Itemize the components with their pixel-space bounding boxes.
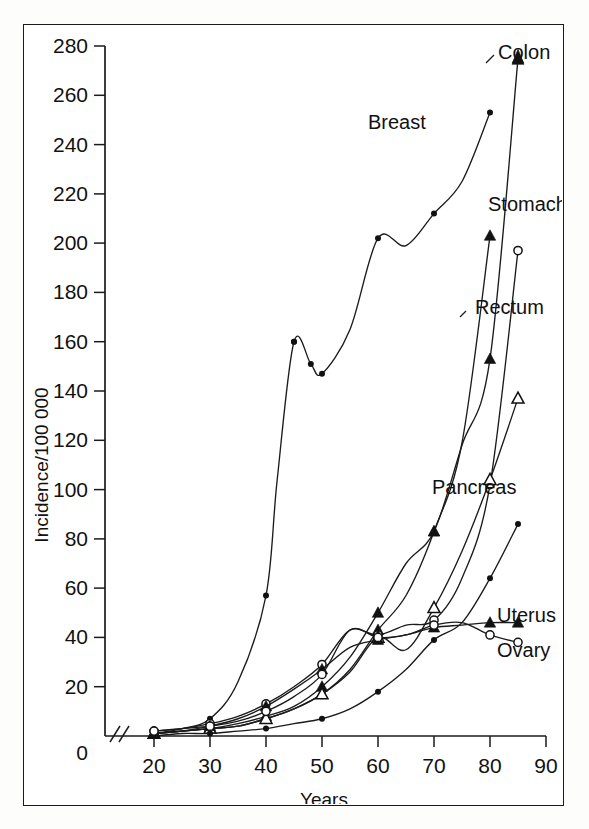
- data-point-filled-circle: [515, 521, 521, 527]
- series-ovary: [150, 621, 522, 735]
- y-tick-label: 120: [53, 428, 88, 451]
- data-point-filled-circle: [487, 110, 493, 116]
- data-point-filled-triangle: [484, 353, 495, 364]
- axis-break-mark: [110, 726, 129, 742]
- y-axis-title: Incidence/100 000: [31, 387, 52, 542]
- data-point-filled-triangle: [484, 230, 495, 241]
- y-tick-label: 200: [53, 231, 88, 254]
- y-tick-label: 240: [53, 133, 88, 156]
- x-tick-labels: 20 30 40 50 60 70 80 90: [142, 754, 557, 777]
- figure-root: 280 260 240 220 200 180 160 140 120 100 …: [0, 0, 589, 829]
- data-point-filled-circle: [263, 726, 269, 732]
- data-point-filled-circle: [291, 339, 297, 345]
- series-label-ovary: Ovary: [497, 639, 550, 661]
- series-line-colon: [154, 58, 518, 733]
- y-tick-label: 80: [65, 527, 88, 550]
- data-point-filled-triangle: [372, 607, 383, 618]
- x-tick-label: 60: [366, 754, 389, 777]
- series-line-breast: [154, 113, 490, 734]
- series-label-rectum: Rectum: [475, 296, 544, 318]
- y-tick-label: 40: [65, 625, 88, 648]
- data-point-open-circle: [486, 631, 494, 639]
- plot-layer: [148, 49, 524, 739]
- data-point-filled-circle: [487, 575, 493, 581]
- series-label-pancreas: Pancreas: [432, 476, 517, 498]
- y-tick-label: 220: [53, 182, 88, 205]
- series-labels: Colon Breast Stomach Rectum Pancreas Ute…: [368, 41, 562, 661]
- y-tick-label: 60: [65, 576, 88, 599]
- data-point-open-triangle: [512, 392, 524, 403]
- data-point-filled-circle: [319, 716, 325, 722]
- data-point-open-circle: [150, 727, 158, 735]
- incidence-by-age-line-chart: 280 260 240 220 200 180 160 140 120 100 …: [24, 25, 562, 804]
- x-tick-label: 80: [478, 754, 501, 777]
- y-tick-label: 260: [53, 83, 88, 106]
- series-uterus: [148, 617, 523, 738]
- data-point-open-circle: [374, 633, 382, 641]
- leader-lines: [460, 55, 494, 317]
- series-label-stomach: Stomach: [488, 193, 562, 215]
- series-line-pancreas: [154, 524, 518, 736]
- data-point-filled-triangle: [428, 525, 439, 536]
- series-label-breast: Breast: [368, 111, 426, 133]
- y-tick-label: 100: [53, 478, 88, 501]
- series-pancreas: [151, 521, 521, 739]
- data-point-open-circle: [318, 670, 326, 678]
- data-point-filled-circle: [431, 211, 437, 217]
- data-point-open-circle: [430, 621, 438, 629]
- data-point-filled-circle: [375, 689, 381, 695]
- series-colon: [148, 52, 523, 738]
- data-point-filled-circle: [308, 361, 314, 367]
- y-tick-label: 280: [53, 34, 88, 57]
- y-tick-label: 140: [53, 379, 88, 402]
- y-tick-label: 20: [65, 675, 88, 698]
- data-point-open-circle: [262, 707, 270, 715]
- series-label-uterus: Uterus: [497, 604, 556, 626]
- series-label-colon: Colon: [498, 41, 550, 63]
- data-point-filled-circle: [263, 593, 269, 599]
- x-tick-label: 90: [534, 754, 557, 777]
- x-tick-label: 30: [198, 754, 221, 777]
- y-tick-labels: 280 260 240 220 200 180 160 140 120 100 …: [53, 34, 88, 764]
- y-tick-marks: [94, 46, 105, 687]
- data-point-filled-circle: [431, 637, 437, 643]
- data-point-filled-circle: [207, 731, 213, 737]
- x-axis-title: Years: [300, 789, 348, 804]
- data-point-open-circle: [206, 722, 214, 730]
- x-tick-label: 50: [310, 754, 333, 777]
- series-breast: [151, 110, 493, 737]
- figure-frame: 280 260 240 220 200 180 160 140 120 100 …: [23, 24, 564, 806]
- y-tick-label: 160: [53, 330, 88, 353]
- y-tick-label: 180: [53, 280, 88, 303]
- data-point-filled-circle: [375, 235, 381, 241]
- data-point-filled-circle: [319, 371, 325, 377]
- x-tick-marks: [154, 736, 546, 747]
- data-point-open-triangle: [428, 602, 440, 613]
- x-tick-label: 20: [142, 754, 165, 777]
- y-tick-label-zero: 0: [76, 741, 88, 764]
- x-tick-label: 40: [254, 754, 277, 777]
- data-point-open-circle: [514, 246, 522, 254]
- x-tick-label: 70: [422, 754, 445, 777]
